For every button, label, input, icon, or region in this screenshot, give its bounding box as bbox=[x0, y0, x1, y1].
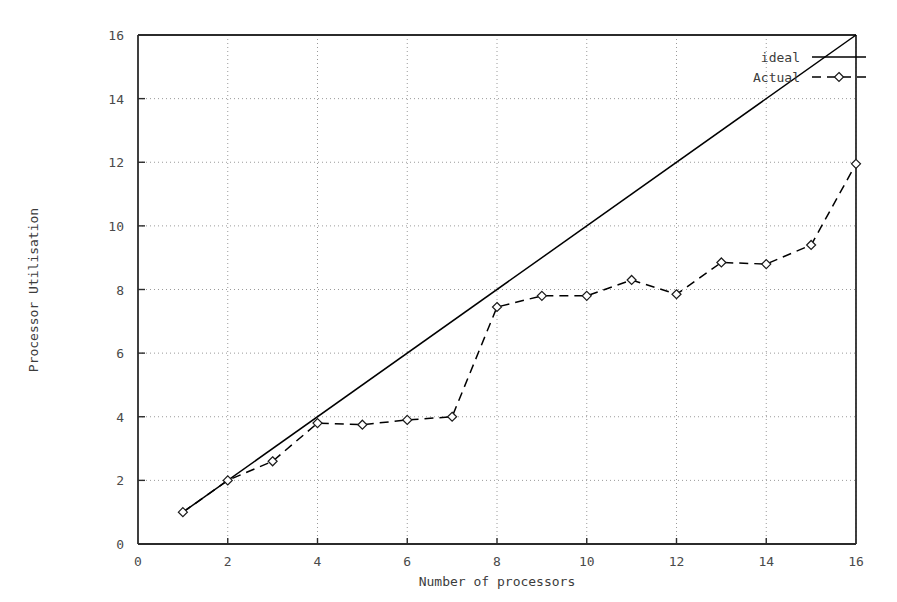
y-tick-label: 0 bbox=[116, 537, 124, 552]
x-tick-label: 12 bbox=[669, 554, 685, 569]
x-tick-label: 10 bbox=[579, 554, 595, 569]
x-tick-label: 6 bbox=[403, 554, 411, 569]
plot-canvas: 0246810121416 0246810121416 idealActual … bbox=[0, 0, 897, 602]
x-tick-label: 4 bbox=[314, 554, 322, 569]
y-tick-label: 14 bbox=[108, 92, 124, 107]
y-tick-label: 8 bbox=[116, 283, 124, 298]
x-tick-label: 8 bbox=[493, 554, 501, 569]
y-axis-label: Processor Utilisation bbox=[26, 208, 41, 372]
x-axis-label: Number of processors bbox=[419, 574, 576, 589]
x-tick-label: 0 bbox=[134, 554, 142, 569]
legend-label-actual: Actual bbox=[753, 70, 800, 85]
y-tick-label: 6 bbox=[116, 346, 124, 361]
y-tick-label: 10 bbox=[108, 219, 124, 234]
y-tick-label: 12 bbox=[108, 155, 124, 170]
chart-background bbox=[0, 0, 897, 602]
x-tick-label: 2 bbox=[224, 554, 232, 569]
chart-figure: 0246810121416 0246810121416 idealActual … bbox=[0, 0, 897, 602]
x-tick-label: 16 bbox=[848, 554, 864, 569]
y-tick-label: 4 bbox=[116, 410, 124, 425]
y-tick-label: 16 bbox=[108, 28, 124, 43]
y-tick-label: 2 bbox=[116, 473, 124, 488]
x-tick-label: 14 bbox=[758, 554, 774, 569]
legend-label-ideal: ideal bbox=[761, 50, 800, 65]
